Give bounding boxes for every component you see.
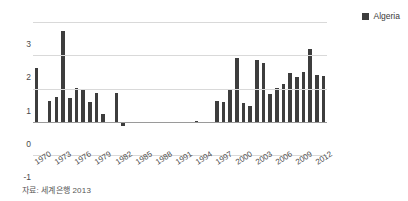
- bar: [88, 102, 92, 121]
- y-tick-label-1: 1: [5, 107, 31, 115]
- bar: [101, 114, 105, 121]
- bar: [95, 93, 99, 122]
- legend-label-algeria: Algeria: [374, 12, 400, 21]
- bar: [295, 77, 299, 122]
- gridline-3: [33, 22, 327, 23]
- bar: [75, 88, 79, 122]
- gridline-1: [33, 89, 327, 90]
- bar: [322, 76, 326, 122]
- bar: [288, 73, 292, 122]
- bar: [55, 97, 59, 121]
- bar: [262, 63, 266, 122]
- bar: [115, 93, 119, 121]
- axis-zero-line: [33, 122, 327, 123]
- bar: [315, 75, 319, 122]
- bar: [68, 98, 72, 122]
- chart-legend: Algeria: [362, 12, 400, 21]
- bar: [222, 102, 226, 121]
- y-tick-label--1: -1: [5, 173, 31, 181]
- bar: [302, 72, 306, 122]
- y-tick-label-2: 2: [5, 73, 31, 81]
- bar: [242, 103, 246, 121]
- bar: [215, 101, 219, 122]
- legend-swatch-algeria: [362, 13, 369, 20]
- bar: [248, 106, 252, 122]
- chart-container: -10123 197019731976197919821985198819911…: [0, 0, 408, 201]
- y-tick-label-3: 3: [5, 40, 31, 48]
- bar: [35, 68, 39, 122]
- gridline-2: [33, 55, 327, 56]
- y-tick-label-0: 0: [5, 140, 31, 148]
- bar: [228, 89, 232, 121]
- bar: [268, 94, 272, 121]
- plot-area: [33, 22, 327, 155]
- x-axis-labels: 1970197319761979198219851988199119941997…: [33, 157, 327, 183]
- bar: [275, 88, 279, 122]
- bar: [255, 60, 259, 122]
- source-caption: 자료: 세계은행 2013: [22, 184, 91, 195]
- bar: [81, 90, 85, 122]
- bar: [48, 101, 52, 122]
- y-axis-labels: -10123: [0, 22, 31, 155]
- bar: [308, 49, 312, 121]
- bar: [61, 31, 65, 121]
- bar: [235, 58, 239, 122]
